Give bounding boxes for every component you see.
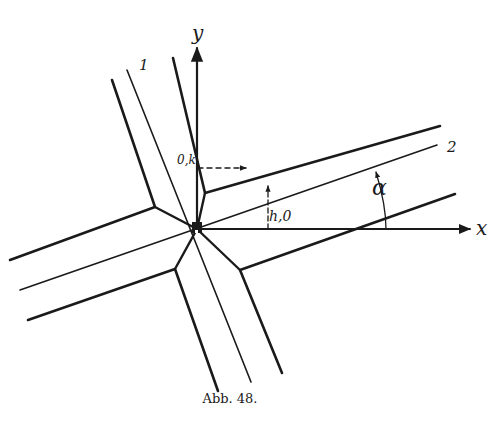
boundary-upper-right [173, 58, 440, 193]
ok-label: 0,k [177, 153, 196, 167]
spoke-ul [155, 207, 197, 229]
x-axis-label: x [476, 216, 487, 240]
strip-1-label: 1 [139, 56, 149, 74]
alpha-label: α [372, 175, 387, 200]
h0-label: h,0 [269, 208, 291, 224]
boundary-lower-left [28, 269, 218, 391]
origin-node-hole [195, 230, 198, 233]
boundary-upper-left [10, 80, 155, 260]
strip-intersection-diagram: y x 1 2 0,k h,0 α [0, 0, 494, 425]
figure-caption: Abb. 48. [0, 391, 460, 406]
strip-2-centerline [20, 145, 437, 290]
y-axis-label: y [191, 21, 204, 45]
strip-2-label: 2 [446, 138, 457, 156]
